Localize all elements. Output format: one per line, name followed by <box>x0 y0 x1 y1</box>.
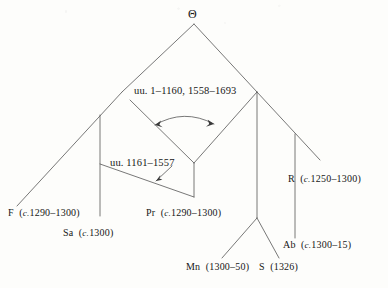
edge-right-node-to-R <box>257 92 320 160</box>
witness-paren-close-R: ) <box>357 173 361 184</box>
edge-left-branch-to-F <box>17 92 122 206</box>
witness-paren-close-S: ) <box>295 261 299 272</box>
node-label-theta: Θ <box>188 8 197 20</box>
witness-label-R: R (c.1250–1300) <box>288 174 361 184</box>
node-label-hyparchetype-lower: uu. 1161–1557 <box>110 158 175 169</box>
stemma-diagram: Θ uu. 1–1160, 1558–1693 uu. 1161–1557 F … <box>0 0 388 288</box>
edge-fork-to-S <box>257 218 279 258</box>
witness-dates-Mn: 1300–50 <box>209 261 245 272</box>
witness-label-Sa: Sa (c.1300) <box>63 228 113 238</box>
witness-label-Pr: Pr (c.1290–1300) <box>146 208 221 218</box>
witness-paren-close-Mn: ) <box>246 261 250 272</box>
witness-dates-Sa: 1300 <box>89 227 110 238</box>
witness-paren-close-Ab: ) <box>348 239 352 250</box>
witness-siglum-Sa: Sa <box>63 227 73 238</box>
witness-label-Mn: Mn (1300–50) <box>186 262 249 272</box>
witness-circa-Pr: c. <box>164 208 171 218</box>
edge-fork-to-Mn <box>222 218 257 258</box>
edge-theta-to-left-branch <box>122 24 194 92</box>
edge-theta-to-right-node <box>194 24 257 92</box>
witness-circa-R: c. <box>304 174 311 184</box>
witness-dates-R: 1250–1300 <box>311 173 358 184</box>
witness-siglum-F: F <box>8 207 14 218</box>
witness-dates-Ab: 1300–15 <box>311 239 347 250</box>
witness-label-S: S (1326) <box>259 262 298 272</box>
witness-siglum-S: S <box>259 261 265 272</box>
witness-siglum-Ab: Ab <box>283 239 296 250</box>
contamination-arc <box>155 116 214 125</box>
witness-siglum-R: R <box>288 173 295 184</box>
witness-dates-Pr: 1290–1300 <box>171 207 218 218</box>
edge-right-node-down-left <box>194 92 257 163</box>
edge-upper-hyparchetype-down-right <box>130 100 194 163</box>
witness-paren-close-Sa: ) <box>110 227 114 238</box>
witness-paren-close-Pr: ) <box>218 207 222 218</box>
witness-siglum-Mn: Mn <box>186 261 200 272</box>
edge-lower-hyparchetype-to-Pr <box>100 164 194 197</box>
node-label-hyparchetype-upper: uu. 1–1160, 1558–1693 <box>134 86 237 97</box>
witness-siglum-Pr: Pr <box>146 207 155 218</box>
witness-label-F: F (c.1290–1300) <box>8 208 80 218</box>
witness-dates-S: 1326 <box>274 261 295 272</box>
witness-dates-F: 1290–1300 <box>29 207 76 218</box>
witness-label-Ab: Ab (c.1300–15) <box>283 240 351 250</box>
witness-paren-close-F: ) <box>76 207 80 218</box>
